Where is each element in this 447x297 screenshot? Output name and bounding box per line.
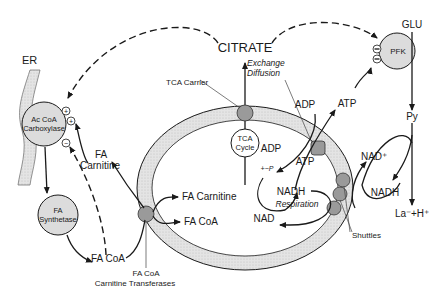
diagram-canvas: + + − ER CITRATE GLU PFK TCA Carrier Exc… (0, 0, 447, 297)
tca-cycle-label-1: TCA (238, 134, 253, 143)
shuttle-protein-3 (327, 201, 341, 215)
atp-outside-label: ATP (338, 98, 357, 109)
respiration-label: Respiration (276, 199, 319, 209)
transferase-protein (138, 206, 154, 222)
pyruvate-label: Py (406, 111, 418, 122)
transferase-label-1: FA CoA (132, 269, 160, 278)
tca-cycle-label-2: Cycle (236, 143, 255, 152)
accoa-carboxylase-label-2: Carboxylase (23, 124, 65, 133)
citrate-to-accoa-arrow (68, 27, 218, 98)
transferase-label-2: Carnitine Transferases (95, 279, 175, 288)
plus-sign-2: + (69, 118, 73, 125)
citrate-to-pfk-arrow (272, 22, 377, 43)
shuttle-protein-1 (336, 173, 350, 187)
nad-plus-arrow (352, 162, 366, 208)
plus-sign-1: + (64, 108, 68, 115)
fa-carnitine-outside-label-2: Carnitine (80, 160, 120, 171)
minus-sign: − (64, 140, 68, 147)
synth-to-facoa-arrow (67, 235, 92, 262)
nadh-arrow (393, 135, 412, 180)
metabolic-diagram: + + − ER CITRATE GLU PFK TCA Carrier Exc… (0, 0, 447, 297)
fa-coa-outside-label: FA CoA (91, 253, 125, 264)
fa-coa-inside-label: FA CoA (184, 216, 218, 227)
er-label: ER (22, 54, 37, 66)
lactate-label: La⁻+H⁺ (395, 208, 429, 219)
shuttles-label: Shuttles (352, 231, 381, 240)
nadh-inside-label: NADH (277, 186, 305, 197)
atp-to-pfk-arrow (355, 68, 371, 88)
pfk-label: PFK (390, 47, 406, 56)
glu-label: GLU (402, 19, 423, 30)
tca-carrier-label: TCA Carrier (166, 78, 209, 87)
fa-synthetase-label-2: Synthetase (39, 215, 77, 224)
atp-inside-label: ATP (296, 156, 315, 167)
citrate-label: CITRATE (218, 40, 273, 55)
fa-carnitine-inside-label: FA Carnitine (182, 191, 237, 202)
fa-carnitine-outside-label-1: FA (95, 149, 108, 160)
facoa-to-carnitine-arrow (126, 220, 145, 258)
accoa-to-synth-arrow (45, 147, 47, 193)
exchange-diffusion-carrier (311, 141, 325, 155)
diffusion-label: Diffusion (247, 68, 280, 78)
facarnitine-to-accoa-arrow (76, 124, 88, 163)
accoa-carboxylase-label-1: Ac CoA (31, 115, 56, 124)
nad-inside-label: NAD (253, 213, 274, 224)
nadh-outside-label: NADH (371, 187, 399, 198)
fa-synthetase-label-1: FA (53, 206, 62, 215)
phosphate-label: +~P (261, 165, 274, 172)
nad-plus-label: NAD⁺ (361, 151, 387, 162)
adp-inside-label: ADP (261, 143, 282, 154)
exchange-label: Exchange (247, 58, 285, 68)
adp-outside-label: ADP (295, 99, 316, 110)
